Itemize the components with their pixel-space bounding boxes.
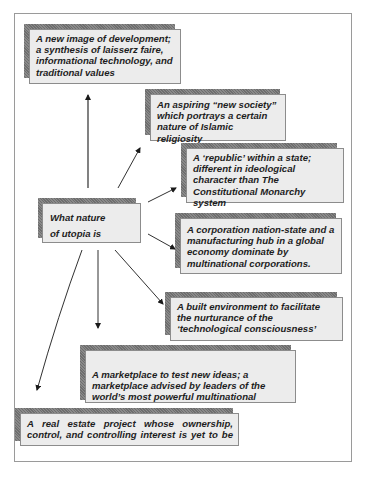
node-text-box: A built environment to facilitate the nu… [170,297,343,341]
edge-arrow-republic [148,188,176,202]
node-text-box: A ‘republic’ within a state; different i… [186,148,344,203]
node-text-box: A real estate project whose ownership, c… [20,413,239,446]
node-text-box: A corporation nation-state and a manufac… [180,218,342,274]
edge-arrow-new-society [118,148,140,188]
node-text-box: An aspiring “new society” which portrays… [150,94,286,141]
node-text-box: A new image of development; a synthesis … [29,29,181,84]
node-text-box: What nature of utopia is [42,203,141,243]
node-text-box: A marketplace to test new ideas; a marke… [85,350,296,403]
edge-arrow-corporation [148,234,175,249]
edge-arrow-real-estate [37,250,82,390]
edge-arrow-built-environment [115,250,163,304]
